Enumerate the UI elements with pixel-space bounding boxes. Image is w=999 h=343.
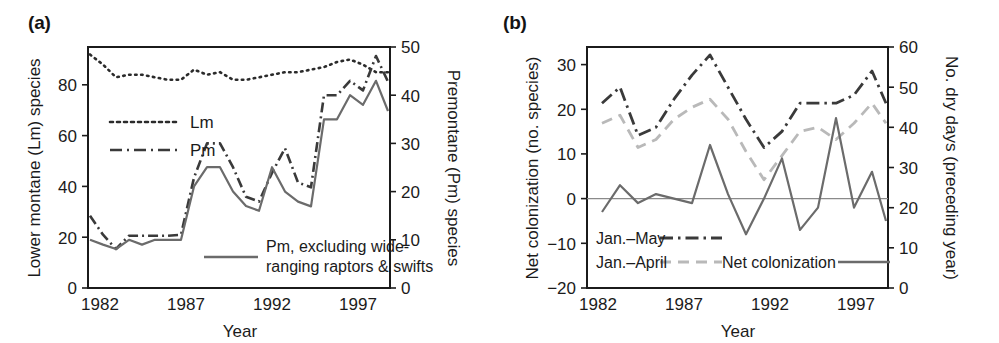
panel-a: (a) bbox=[0, 0, 500, 343]
ytick-80-a: 80 bbox=[58, 76, 77, 95]
rtick-0-a: 0 bbox=[401, 279, 410, 298]
ytick-10-b: 10 bbox=[557, 145, 576, 164]
series-pm-excluding-a bbox=[90, 81, 388, 249]
figure-container: (a) bbox=[0, 0, 999, 343]
y-axis-title-right-a: Premontane (Pm) species bbox=[444, 70, 463, 267]
legend-label-jan-april-b: Jan.–April bbox=[596, 254, 667, 271]
ytick-60-a: 60 bbox=[58, 127, 77, 146]
xtick-1982-b: 1982 bbox=[579, 295, 617, 314]
ytick-0-a: 0 bbox=[68, 279, 77, 298]
xtick-1982-a: 1982 bbox=[81, 295, 119, 314]
series-pm-a bbox=[90, 56, 388, 249]
x-axis-title-a: Year bbox=[223, 322, 258, 341]
xtick-1992-a: 1992 bbox=[253, 295, 291, 314]
rtick-50-b: 50 bbox=[899, 79, 918, 98]
rtick-50-a: 50 bbox=[401, 38, 420, 57]
rtick-40-a: 40 bbox=[401, 87, 420, 106]
xtick-1997-b: 1997 bbox=[837, 295, 875, 314]
x-tick-labels-a: 1982 1987 1992 1997 bbox=[81, 295, 377, 314]
legend-label-pm-excluding-line2-a: ranging raptors & swifts bbox=[266, 258, 433, 275]
rtick-20-b: 20 bbox=[899, 199, 918, 218]
series-net-colonization-b bbox=[602, 118, 886, 234]
ytick-30-b: 30 bbox=[557, 56, 576, 75]
rtick-0-b: 0 bbox=[899, 279, 908, 298]
rtick-30-b: 30 bbox=[899, 159, 918, 178]
series-lm-a bbox=[90, 55, 388, 80]
left-tick-labels-a: 0 20 40 60 80 bbox=[58, 76, 77, 298]
legend-label-pm-excluding-line1-a: Pm, excluding wide- bbox=[266, 238, 409, 255]
y-axis-title-b: Net colonization (no. species) bbox=[523, 56, 542, 279]
rtick-20-a: 20 bbox=[401, 183, 420, 202]
x-axis-title-b: Year bbox=[721, 322, 756, 341]
xtick-1997-a: 1997 bbox=[339, 295, 377, 314]
xtick-1992-b: 1992 bbox=[751, 295, 789, 314]
legend-label-lm-a: Lm bbox=[190, 113, 214, 132]
xtick-1987-b: 1987 bbox=[665, 295, 703, 314]
y-axis-title-right-b: No. dry days (preceding year) bbox=[942, 56, 961, 280]
left-tick-labels-b: −20 −10 0 10 20 30 bbox=[547, 56, 576, 298]
panel-b-chart: −20 −10 0 10 20 30 0 10 20 30 40 50 60 1… bbox=[490, 0, 999, 343]
ytick-20-a: 20 bbox=[58, 229, 77, 248]
legend-label-pm-a: Pm bbox=[190, 141, 216, 160]
series-jan-april-b bbox=[602, 99, 886, 180]
legend-label-jan-may-b: Jan.–May bbox=[596, 230, 665, 247]
xtick-1987-a: 1987 bbox=[167, 295, 205, 314]
x-tick-labels-b: 1982 1987 1992 1997 bbox=[579, 295, 875, 314]
rtick-30-a: 30 bbox=[401, 135, 420, 154]
panel-b: (b) bbox=[490, 0, 999, 343]
ytick-0-b: 0 bbox=[567, 190, 576, 209]
ytick-m20-b: −20 bbox=[547, 279, 576, 298]
plot-frame-b bbox=[587, 47, 888, 288]
legend-label-net-colonization-b: Net colonization bbox=[722, 254, 836, 271]
ytick-40-a: 40 bbox=[58, 178, 77, 197]
right-tick-labels-b: 0 10 20 30 40 50 60 bbox=[899, 38, 918, 298]
ytick-m10-b: −10 bbox=[547, 235, 576, 254]
rtick-60-b: 60 bbox=[899, 38, 918, 57]
y-axis-title-a: Lower montane (Lm) species bbox=[25, 58, 44, 277]
rtick-10-b: 10 bbox=[899, 239, 918, 258]
ytick-20-b: 20 bbox=[557, 101, 576, 120]
rtick-40-b: 40 bbox=[899, 119, 918, 138]
panel-a-chart: 0 20 40 60 80 0 10 20 30 40 50 1982 1987… bbox=[0, 0, 500, 343]
